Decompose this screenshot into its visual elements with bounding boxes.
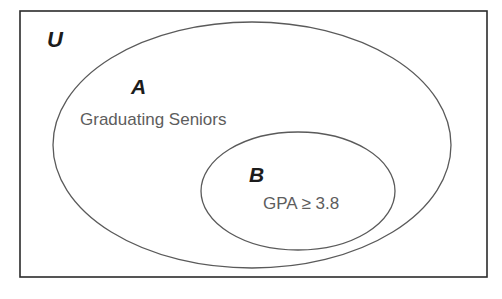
universal-set-label: U <box>47 27 64 52</box>
venn-diagram-root: U A Graduating Seniors B GPA ≥ 3.8 <box>0 0 502 299</box>
venn-diagram-canvas: U A Graduating Seniors B GPA ≥ 3.8 <box>0 0 502 299</box>
universal-set-rectangle <box>20 11 487 277</box>
set-b-caption: GPA ≥ 3.8 <box>263 194 339 213</box>
set-b-label: B <box>249 163 264 186</box>
set-a-caption: Graduating Seniors <box>80 110 226 129</box>
set-a-label: A <box>130 75 146 98</box>
